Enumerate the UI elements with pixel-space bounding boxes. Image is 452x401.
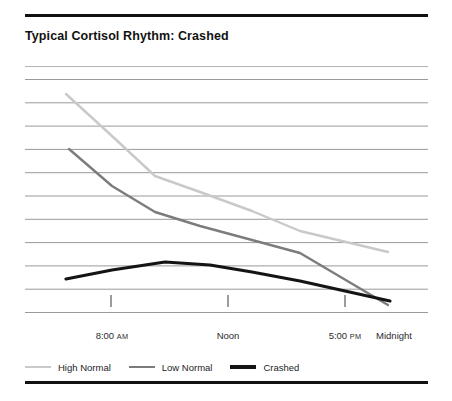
chart-gridlines (25, 80, 428, 313)
chart-legend: High NormalLow NormalCrashed (25, 358, 317, 376)
legend-item-crashed[interactable]: Crashed (230, 362, 299, 373)
x-tick-meridiem-text: PM (350, 332, 362, 341)
x-axis-tick-label-5pm: 5:00 PM (329, 330, 362, 341)
legend-label: Low Normal (162, 362, 213, 373)
x-axis-tick-label-noon: Noon (217, 330, 240, 341)
legend-item-low-normal[interactable]: Low Normal (129, 362, 213, 373)
x-tick-time-text: 8:00 (96, 330, 117, 341)
chart-x-tick-marks (111, 295, 345, 307)
x-axis-tick-label-8am: 8:00 AM (96, 330, 129, 341)
x-tick-meridiem-text: AM (117, 332, 129, 341)
legend-line-swatch (129, 366, 155, 368)
legend-label: High Normal (58, 362, 111, 373)
chart-figure: Typical Cortisol Rhythm: Crashed 8:00 AM… (0, 0, 452, 401)
bottom-divider-rule (25, 381, 428, 384)
legend-label: Crashed (263, 362, 299, 373)
x-tick-time-text: 5:00 (329, 330, 350, 341)
legend-line-swatch (230, 365, 256, 368)
x-axis-tick-label-midnight: Midnight (376, 330, 412, 341)
legend-line-swatch (25, 366, 51, 368)
legend-item-high-normal[interactable]: High Normal (25, 362, 111, 373)
